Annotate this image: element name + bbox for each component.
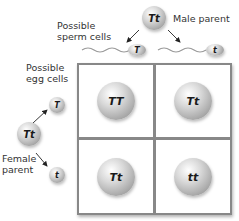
female-parent-cell: Tt: [17, 122, 41, 146]
possible-egg-label: Possible egg cells: [26, 62, 68, 84]
grid-cell-Tt-bottom: Tt: [79, 140, 153, 213]
offspring-Tt-top: Tt: [174, 82, 212, 120]
offspring-tt: tt: [174, 158, 212, 196]
offspring-Tt-bottom: Tt: [97, 158, 135, 196]
egg-cell-T: T: [49, 97, 65, 113]
arrow-to-sperm-t: [168, 30, 180, 42]
egg-cell-t: t: [49, 167, 65, 183]
grid-cell-tt: tt: [156, 140, 230, 213]
possible-sperm-line2: sperm cells: [57, 31, 111, 42]
male-parent-label: Male parent: [173, 13, 230, 24]
possible-sperm-line1: Possible: [57, 20, 111, 31]
offspring-TT: TT: [97, 82, 135, 120]
grid-cell-Tt-top: Tt: [156, 65, 230, 137]
sperm-cell-t: t: [206, 44, 224, 56]
female-parent-line1: Female: [2, 153, 36, 164]
arrow-to-egg-t: [36, 153, 47, 166]
possible-sperm-label: Possible sperm cells: [57, 20, 111, 42]
sperm-tail-t: [158, 48, 206, 52]
male-parent-cell: Tt: [142, 6, 166, 30]
grid-cell-TT: TT: [79, 65, 153, 137]
arrow-to-egg-T: [33, 110, 47, 123]
punnett-square: TT Tt Tt tt: [77, 63, 232, 215]
female-parent-line2: parent: [2, 164, 36, 175]
female-parent-label: Female parent: [2, 153, 36, 175]
possible-egg-line1: Possible: [26, 62, 68, 73]
arrow-to-sperm-T: [127, 30, 139, 42]
possible-egg-line2: egg cells: [26, 73, 68, 84]
sperm-cell-T: T: [128, 44, 146, 56]
sperm-tail-T: [82, 48, 130, 52]
